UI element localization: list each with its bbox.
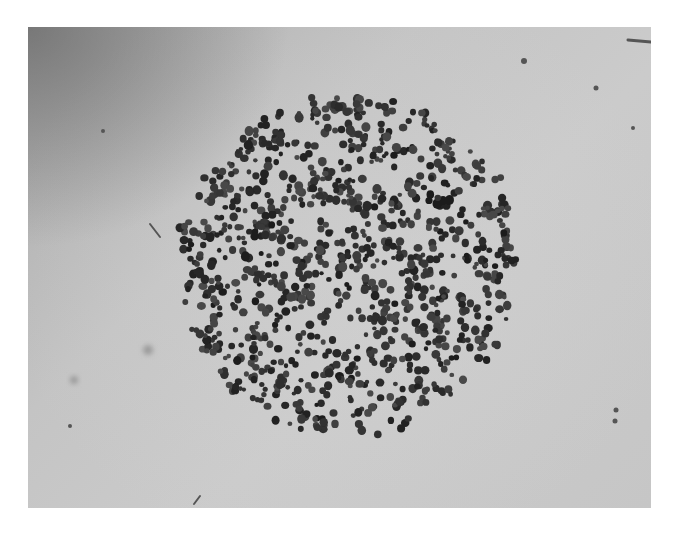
colony-dot <box>315 192 324 200</box>
colony-dot <box>354 205 362 212</box>
colony-dot <box>473 265 478 270</box>
colony-dot <box>197 302 206 310</box>
colony-dot <box>286 242 294 249</box>
colony-dot <box>268 221 275 228</box>
colony-dot <box>374 431 382 439</box>
colony-dot <box>292 391 296 395</box>
colony-dot <box>204 348 210 353</box>
colony-dot <box>212 167 220 174</box>
colony-dot <box>324 124 332 132</box>
colony-dot <box>434 310 440 317</box>
colony-dot <box>180 236 189 244</box>
colony-dot <box>189 227 198 236</box>
debris-speck <box>70 376 78 384</box>
colony-dot <box>365 380 369 384</box>
colony-dot <box>416 209 421 215</box>
colony-dot <box>276 138 284 146</box>
colony-dot <box>435 152 440 157</box>
colony-dot <box>475 270 484 277</box>
colony-dot <box>361 122 370 132</box>
colony-dot <box>342 291 350 299</box>
colony-dot <box>426 162 434 170</box>
colony-dot <box>310 116 314 120</box>
colony-dot <box>277 131 286 139</box>
colony-dot <box>500 229 507 236</box>
colony-dot <box>334 95 340 101</box>
colony-dot <box>355 344 360 350</box>
colony-dot <box>230 198 237 205</box>
colony-dot <box>239 186 244 191</box>
colony-dot <box>512 256 519 262</box>
colony-dot <box>242 240 247 245</box>
colony-dot <box>346 184 352 190</box>
debris-speck <box>68 424 72 428</box>
colony-dot <box>210 320 218 328</box>
colony-dot <box>267 341 274 348</box>
debris-speck <box>101 129 105 133</box>
colony-dot <box>297 414 306 424</box>
colony-dot <box>399 270 405 276</box>
colony-dot <box>200 219 207 226</box>
colony-dot <box>480 343 488 350</box>
colony-dot <box>476 212 481 218</box>
colony-dot <box>346 193 350 197</box>
colony-dot <box>214 275 221 282</box>
colony-dot <box>413 180 420 187</box>
colony-dot <box>445 330 450 335</box>
colony-dot <box>314 424 322 431</box>
colony-dot <box>495 290 504 299</box>
colony-dot <box>425 340 431 345</box>
colony-dot <box>217 305 222 310</box>
colony-dot <box>208 285 216 293</box>
colony-dot <box>438 164 446 173</box>
colony-dot <box>197 251 204 258</box>
colony-dot <box>410 109 416 116</box>
colony-dot <box>266 141 272 147</box>
colony-dot <box>474 312 481 319</box>
colony-dot <box>389 222 397 230</box>
colony-dot <box>361 286 369 294</box>
colony-dot <box>291 194 297 201</box>
colony-dot <box>501 211 509 218</box>
colony-dot <box>229 246 236 254</box>
colony-dot <box>334 102 343 111</box>
colony-dot <box>227 224 232 230</box>
colony-dot <box>438 252 444 258</box>
colony-dot <box>389 200 395 207</box>
debris-speck <box>594 86 599 91</box>
colony-dot <box>378 195 387 203</box>
colony-dot <box>261 115 269 123</box>
colony-dot <box>445 216 454 225</box>
colony-dot <box>310 177 318 186</box>
colony-dot <box>371 263 377 268</box>
colony-dot <box>495 305 504 313</box>
colony-dot <box>471 181 477 187</box>
colony-dot <box>329 409 337 417</box>
colony-dot <box>371 203 378 210</box>
colony-dot <box>292 306 298 312</box>
colony-dot <box>443 154 448 159</box>
colony-dot <box>502 236 510 244</box>
colony-dot <box>272 416 280 425</box>
colony-dot <box>259 274 267 282</box>
colony-dot <box>422 399 429 406</box>
colony-dot <box>234 224 241 231</box>
colony-dot <box>454 355 460 361</box>
colony-dot <box>431 122 437 128</box>
colony-dot <box>225 235 232 242</box>
colony-dot <box>279 152 283 157</box>
colony-dot <box>449 151 455 156</box>
colony-dot <box>418 293 426 301</box>
colony-dot <box>370 151 376 157</box>
colony-dot <box>299 201 305 208</box>
colony-dot <box>375 102 382 109</box>
colony-dot <box>408 220 415 228</box>
colony-dot <box>389 98 397 105</box>
colony-dot <box>281 196 288 203</box>
colony-dot <box>348 138 353 143</box>
colony-dot <box>368 279 376 286</box>
colony-dot <box>278 359 284 366</box>
colony-dot <box>448 391 453 396</box>
colony-dot <box>399 356 406 363</box>
colony-dot <box>250 395 256 401</box>
